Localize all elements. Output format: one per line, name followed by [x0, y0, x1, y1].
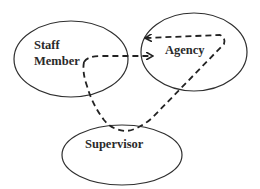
relationship-diagram: Staff Member Agency Supervisor — [0, 0, 260, 189]
staff-member-label-line1: Staff — [34, 38, 61, 52]
supervisor-ellipse — [62, 125, 182, 185]
node-agency: Agency — [141, 13, 247, 91]
node-staff-member: Staff Member — [14, 21, 128, 97]
node-supervisor: Supervisor — [62, 125, 182, 185]
supervisor-label: Supervisor — [85, 137, 144, 151]
staff-member-label-line2: Member — [34, 54, 80, 68]
agency-label: Agency — [165, 43, 205, 57]
